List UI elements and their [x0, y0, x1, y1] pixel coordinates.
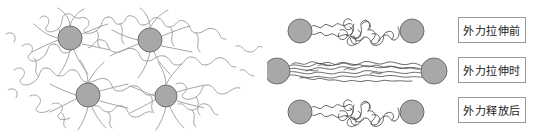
anchor-nodes-during: [267, 58, 447, 84]
crosslinked-network-panel: [0, 0, 267, 137]
figure-canvas: 外力拉伸前 外力拉伸时 外力释放后: [0, 0, 534, 137]
crosslink-node: [138, 28, 162, 52]
anchor-node-right: [400, 19, 424, 43]
label-during-stretch: 外力拉伸时: [458, 57, 526, 83]
crosslink-node: [58, 26, 82, 50]
network-crosslink-arms: [32, 8, 204, 130]
network-diagram: [0, 0, 267, 137]
network-nodes: [58, 26, 177, 107]
coiled-chains-after: [311, 100, 399, 127]
extended-chains-during: [289, 61, 424, 81]
anchor-node-left: [267, 58, 290, 84]
row-during-stretch: [267, 58, 447, 84]
anchor-node-left: [288, 19, 312, 43]
anchor-node-left: [288, 100, 312, 124]
label-after-release: 外力释放后: [458, 97, 526, 123]
row-after-release: [288, 100, 424, 127]
crosslink-node: [76, 83, 100, 107]
anchor-node-right: [421, 58, 447, 84]
row-before-stretch: [288, 19, 424, 46]
coiled-chains-before: [311, 19, 399, 46]
crosslink-node: [155, 85, 177, 107]
anchor-node-right: [400, 100, 424, 124]
label-before-stretch: 外力拉伸前: [458, 17, 526, 43]
